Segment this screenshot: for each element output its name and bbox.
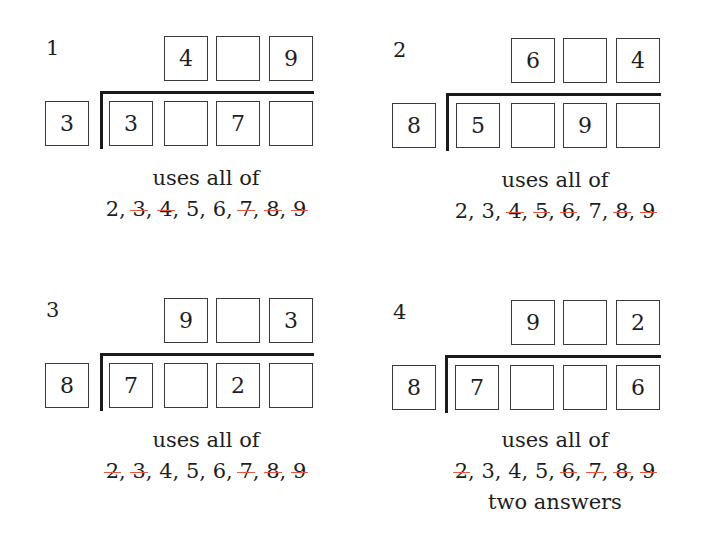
divisor-box[interactable]: 8 xyxy=(392,365,436,410)
puzzle-number: 3 xyxy=(46,298,59,322)
dividend-box[interactable]: 6 xyxy=(616,365,660,410)
caption-uses-all-of: uses all of xyxy=(96,425,316,455)
dividend-box[interactable]: 9 xyxy=(563,103,607,148)
quotient-box[interactable]: 3 xyxy=(269,298,313,343)
digit-struck: 4 xyxy=(159,194,172,224)
puzzle-number: 2 xyxy=(393,38,406,62)
digit: 6 xyxy=(213,194,226,224)
digit-struck: 9 xyxy=(293,194,306,224)
division-bracket-top xyxy=(100,91,314,94)
digit-struck: 4 xyxy=(508,196,521,226)
digit-list: 2, 3, 4, 5, 6, 7, 8, 9 xyxy=(96,194,316,224)
dividend-box[interactable] xyxy=(269,363,313,408)
dividend-box[interactable] xyxy=(616,103,660,148)
digit-list: 2, 3, 4, 5, 6, 7, 8, 9 xyxy=(96,456,316,486)
quotient-box[interactable]: 9 xyxy=(164,298,208,343)
division-bracket-top xyxy=(445,355,661,358)
quotient-box[interactable]: 9 xyxy=(269,36,313,81)
quotient-box[interactable] xyxy=(563,38,607,83)
caption-uses-all-of: uses all of xyxy=(445,425,665,455)
digit-struck: 6 xyxy=(562,196,575,226)
dividend-box[interactable] xyxy=(164,101,208,146)
dividend-box[interactable]: 2 xyxy=(216,363,260,408)
digit-struck: 9 xyxy=(642,456,655,486)
digit-struck: 9 xyxy=(642,196,655,226)
puzzle-number: 4 xyxy=(393,300,406,324)
digit: 2 xyxy=(455,196,468,226)
quotient-box[interactable] xyxy=(563,300,607,345)
division-bracket-top xyxy=(100,353,314,356)
digit-struck: 8 xyxy=(615,196,628,226)
digit-struck: 8 xyxy=(615,456,628,486)
puzzle-2: 2 6 4 8 5 9 uses all of 2, 3, 4, 5, 6, 7… xyxy=(383,36,701,286)
dividend-box[interactable] xyxy=(510,365,554,410)
digit-struck: 6 xyxy=(562,456,575,486)
digit-list: 2, 3, 4, 5, 6, 7, 8, 9 xyxy=(445,456,665,486)
digit: 5 xyxy=(186,456,199,486)
digit: 6 xyxy=(213,456,226,486)
division-bracket-side xyxy=(100,353,103,411)
digit: 4 xyxy=(508,456,521,486)
divisor-box[interactable]: 8 xyxy=(45,363,89,408)
digit-struck: 9 xyxy=(293,456,306,486)
puzzle-number: 1 xyxy=(46,36,59,60)
dividend-box[interactable]: 5 xyxy=(456,103,500,148)
divisor-box[interactable]: 3 xyxy=(45,101,89,146)
division-bracket-top xyxy=(446,93,661,96)
dividend-box[interactable] xyxy=(511,103,555,148)
quotient-box[interactable]: 2 xyxy=(616,300,660,345)
digit-struck: 7 xyxy=(239,456,252,486)
quotient-box[interactable]: 4 xyxy=(616,38,660,83)
quotient-box[interactable] xyxy=(216,298,260,343)
digit: 3 xyxy=(481,456,494,486)
dividend-box[interactable]: 7 xyxy=(109,363,153,408)
dividend-box[interactable]: 7 xyxy=(455,365,499,410)
caption-uses-all-of: uses all of xyxy=(96,163,316,193)
digit-struck: 2 xyxy=(455,456,468,486)
puzzle-1: 1 4 9 3 3 7 uses all of 2, 3, 4, 5, 6, 7… xyxy=(36,34,366,284)
division-bracket-side xyxy=(445,355,448,413)
digit: 4 xyxy=(159,456,172,486)
quotient-box[interactable] xyxy=(216,36,260,81)
digit-struck: 7 xyxy=(588,456,601,486)
puzzle-4: 4 9 2 8 7 6 uses all of 2, 3, 4, 5, 6, 7… xyxy=(383,298,701,546)
division-bracket-side xyxy=(446,93,449,151)
quotient-box[interactable]: 4 xyxy=(164,36,208,81)
digit-struck: 7 xyxy=(239,194,252,224)
digit-struck: 3 xyxy=(132,456,145,486)
digit: 3 xyxy=(481,196,494,226)
dividend-box[interactable]: 3 xyxy=(109,101,153,146)
digit: 5 xyxy=(186,194,199,224)
digit-list: 2, 3, 4, 5, 6, 7, 8, 9 xyxy=(445,196,665,226)
digit-struck: 3 xyxy=(132,194,145,224)
puzzle-3: 3 9 3 8 7 2 uses all of 2, 3, 4, 5, 6, 7… xyxy=(36,296,366,546)
digit-struck: 8 xyxy=(266,194,279,224)
digit-struck: 8 xyxy=(266,456,279,486)
quotient-box[interactable]: 9 xyxy=(511,300,555,345)
dividend-box[interactable] xyxy=(563,365,607,410)
caption-uses-all-of: uses all of xyxy=(445,165,665,195)
dividend-box[interactable] xyxy=(269,101,313,146)
digit-struck: 2 xyxy=(106,456,119,486)
dividend-box[interactable] xyxy=(164,363,208,408)
dividend-box[interactable]: 7 xyxy=(216,101,260,146)
digit-struck: 5 xyxy=(535,196,548,226)
digit: 7 xyxy=(588,196,601,226)
digit: 2 xyxy=(106,194,119,224)
division-bracket-side xyxy=(100,91,103,149)
divisor-box[interactable]: 8 xyxy=(392,103,436,148)
digit: 5 xyxy=(535,456,548,486)
quotient-box[interactable]: 6 xyxy=(511,38,555,83)
note-two-answers: two answers xyxy=(445,487,665,517)
